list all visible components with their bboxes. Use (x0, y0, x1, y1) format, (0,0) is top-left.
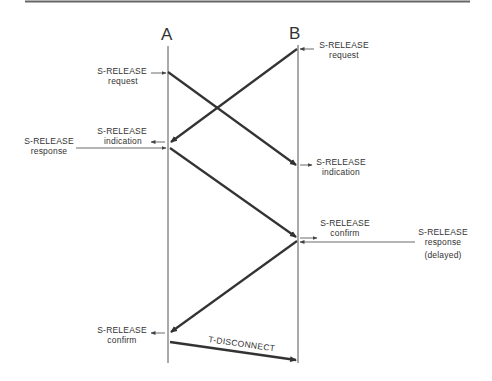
message-b-request-to-a-indication (171, 49, 297, 142)
svg-text:S-RELEASE: S-RELEASE (24, 136, 74, 146)
label-t-disconnect: T-DISCONNECT (208, 334, 276, 353)
svg-text:(delayed): (delayed) (424, 250, 461, 260)
svg-text:S-RELEASE: S-RELEASE (97, 126, 147, 136)
svg-text:S-RELEASE: S-RELEASE (319, 40, 369, 50)
message-a-request-to-b-indication (168, 72, 296, 165)
message-a-response-to-b-confirm (170, 148, 296, 237)
svg-text:S-RELEASE: S-RELEASE (97, 325, 147, 335)
label-a-request: S-RELEASE request (97, 66, 147, 86)
svg-text:indication: indication (104, 136, 142, 146)
label-a-response: S-RELEASE response (24, 136, 74, 156)
label-b-confirm: S-RELEASE confirm (320, 218, 370, 238)
sequence-diagram: A B S-RELEASE request S-RELEASE request … (0, 0, 492, 381)
svg-text:S-RELEASE: S-RELEASE (320, 218, 370, 228)
svg-text:response: response (31, 146, 68, 156)
svg-text:confirm: confirm (107, 335, 136, 345)
label-a-confirm: S-RELEASE confirm (97, 325, 147, 345)
svg-text:request: request (329, 50, 359, 60)
label-b-indication: S-RELEASE indication (316, 157, 366, 177)
svg-text:confirm: confirm (330, 228, 359, 238)
label-b-response-delayed: S-RELEASE response (delayed) (418, 227, 468, 260)
label-b-request: S-RELEASE request (319, 40, 369, 60)
entity-a-label: A (161, 25, 173, 44)
label-a-indication: S-RELEASE indication (97, 126, 147, 146)
svg-text:indication: indication (322, 167, 360, 177)
svg-text:response: response (425, 237, 462, 247)
svg-text:S-RELEASE: S-RELEASE (316, 157, 366, 167)
svg-text:request: request (108, 76, 138, 86)
message-b-response-to-a-confirm (171, 241, 297, 332)
svg-text:S-RELEASE: S-RELEASE (418, 227, 468, 237)
svg-text:S-RELEASE: S-RELEASE (97, 66, 147, 76)
entity-b-label: B (289, 24, 300, 43)
